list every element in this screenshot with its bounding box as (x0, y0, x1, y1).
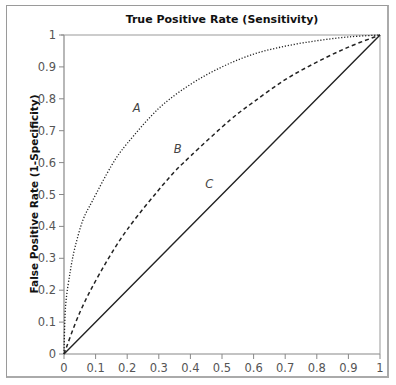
curve-label-a: A (132, 101, 141, 115)
axes: 00.10.20.30.40.50.60.70.80.9100.10.20.30… (38, 28, 384, 375)
y-tick-label: 0.7 (38, 124, 56, 138)
y-tick-label: 0.3 (38, 251, 56, 265)
series-group (64, 35, 380, 354)
roc-chart: True Positive Rate (Sensitivity) False P… (0, 0, 396, 385)
y-tick-label: 0.1 (38, 315, 56, 329)
y-tick-label: 0.8 (38, 92, 56, 106)
x-tick-label: 0.6 (244, 361, 262, 375)
curve-c (64, 35, 380, 354)
y-tick-label: 0.6 (38, 156, 56, 170)
x-tick-label: 0.8 (308, 361, 326, 375)
x-tick-label: 1 (376, 361, 383, 375)
curve-label-b: B (174, 142, 182, 156)
x-tick-label: 0.9 (339, 361, 357, 375)
y-tick-label: 0.5 (38, 188, 56, 202)
chart-title: True Positive Rate (Sensitivity) (126, 13, 319, 26)
x-tick-label: 0.7 (276, 361, 294, 375)
x-tick-label: 0.5 (213, 361, 231, 375)
y-tick-label: 0.2 (38, 283, 56, 297)
x-tick-label: 0.4 (181, 361, 199, 375)
y-tick-label: 0.4 (38, 219, 56, 233)
x-tick-label: 0.3 (150, 361, 168, 375)
curve-label-c: C (205, 177, 213, 191)
x-tick-label: 0 (60, 361, 67, 375)
y-tick-label: 0 (49, 347, 56, 361)
x-tick-label: 0.1 (86, 361, 104, 375)
x-tick-label: 0.2 (118, 361, 136, 375)
y-tick-label: 1 (49, 28, 56, 42)
y-tick-label: 0.9 (38, 60, 56, 74)
